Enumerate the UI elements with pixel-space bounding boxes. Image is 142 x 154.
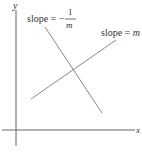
perpendicular-slope-label: slope = − [27, 13, 65, 24]
perpendicular-lines-diagram: y x slope = − 1 m slope = m [0, 0, 142, 154]
fraction-denominator: m [66, 20, 73, 30]
main-slope-prefix: slope = [101, 27, 133, 38]
fraction-numerator: 1 [68, 7, 73, 17]
y-axis-label: y [12, 0, 18, 11]
x-axis-label: x [135, 125, 140, 135]
main-line [31, 40, 116, 99]
perpendicular-slope-prefix: slope = − [27, 13, 65, 24]
main-slope-label: slope = m [101, 27, 140, 38]
main-slope-var: m [133, 27, 140, 38]
